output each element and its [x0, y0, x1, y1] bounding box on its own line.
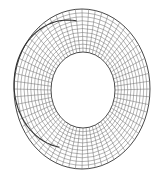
- longitude-line: [34, 117, 60, 146]
- longitude-line: [103, 27, 125, 60]
- longitude-line: [89, 11, 95, 53]
- longitude-line: [14, 94, 51, 97]
- wireframe-torus-figure: [0, 0, 162, 175]
- longitude-line: [115, 89, 150, 90]
- longitude-line: [75, 9, 80, 52]
- latitude-ring: [51, 52, 115, 128]
- longitude-line: [14, 81, 51, 86]
- longitude-line: [82, 9, 83, 52]
- longitude-line: [75, 128, 80, 169]
- longitude-line: [69, 11, 77, 53]
- longitude-line: [69, 127, 77, 167]
- fold-edge: [14, 20, 76, 147]
- wireframe-torus-drawing: [0, 0, 162, 175]
- longitude-line: [86, 128, 89, 169]
- longitude-line: [86, 9, 89, 52]
- longitude-line: [115, 81, 150, 86]
- longitude-line: [98, 124, 114, 160]
- longitude-line: [115, 94, 150, 97]
- longitude-line: [111, 108, 142, 127]
- longitude-line: [22, 51, 55, 72]
- longitude-line: [50, 18, 68, 56]
- fold-edge-curve: [14, 20, 76, 147]
- longitude-line: [14, 89, 51, 90]
- longitude-line: [82, 128, 83, 169]
